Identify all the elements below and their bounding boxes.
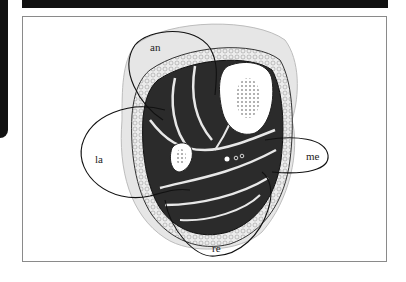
- region-label-la: la: [95, 153, 103, 165]
- region-label-an: an: [150, 41, 161, 53]
- tibia-bone: [220, 62, 273, 134]
- region-label-me: me: [306, 150, 320, 162]
- cross-section-diagram: an la me re: [0, 0, 406, 282]
- region-label-re: re: [212, 242, 221, 254]
